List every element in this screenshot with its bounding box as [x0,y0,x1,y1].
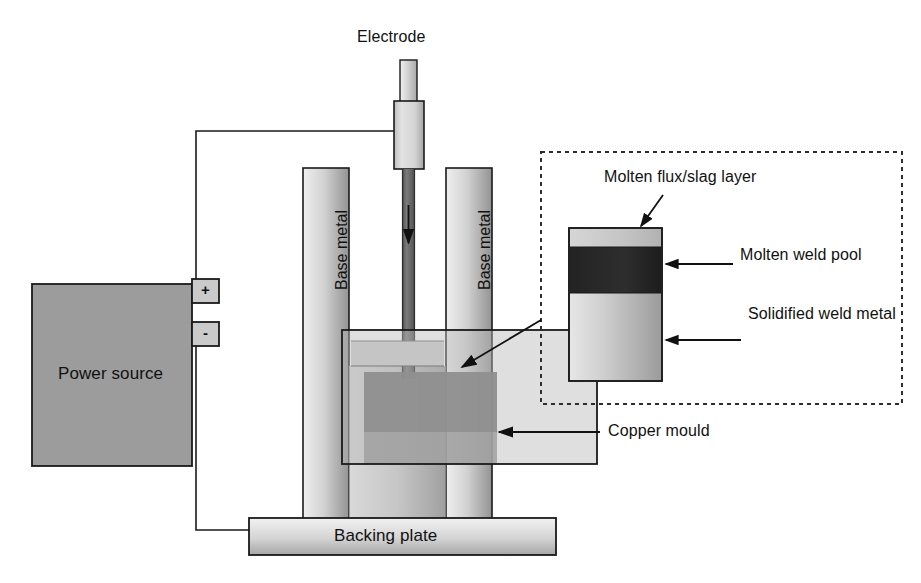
molten-weld-pool-label: Molten weld pool [740,246,862,264]
circuit-wiring [196,131,399,530]
solidified-weld-metal-label: Solidified weld metal [748,305,896,323]
copper-mould-box [342,330,597,464]
electrode-rod [402,169,415,379]
copper-mould-label: Copper mould [608,422,710,440]
inset-detail-frame [541,152,902,404]
leader-mould-to-inset [462,320,541,367]
molten-flux-slag-layer-label: Molten flux/slag layer [604,168,757,186]
electrode-contact-block [394,101,424,169]
weld-gap-column [349,366,446,520]
base-metal-left-label: Base metal [333,210,351,290]
mould-solidified-region [364,432,497,464]
backing-plate-label: Backing plate [334,527,437,546]
power-source-label: Power source [58,365,163,384]
electrode-upper-bar [400,60,417,108]
mould-flux-layer [351,341,444,366]
terminal-positive-label: + [201,282,210,299]
inset-flux-layer-fill [570,229,661,247]
leader-molten-flux [641,195,663,226]
inset-weld-column [569,228,662,381]
callout-lines [462,195,741,432]
terminal-negative-label: - [203,325,208,342]
inset-solidified-fill [570,293,661,380]
diagram-canvas: Electrode Power source + - Base metal Ba… [0,0,921,583]
base-metal-right-label: Base metal [476,210,494,290]
diagram-vector-layer [0,0,921,583]
wire-negative [196,337,258,530]
mould-molten-weld-pool [364,372,497,432]
inset-weld-pool-fill [570,247,661,293]
electrode-label: Electrode [357,28,426,46]
wire-positive [196,131,399,291]
